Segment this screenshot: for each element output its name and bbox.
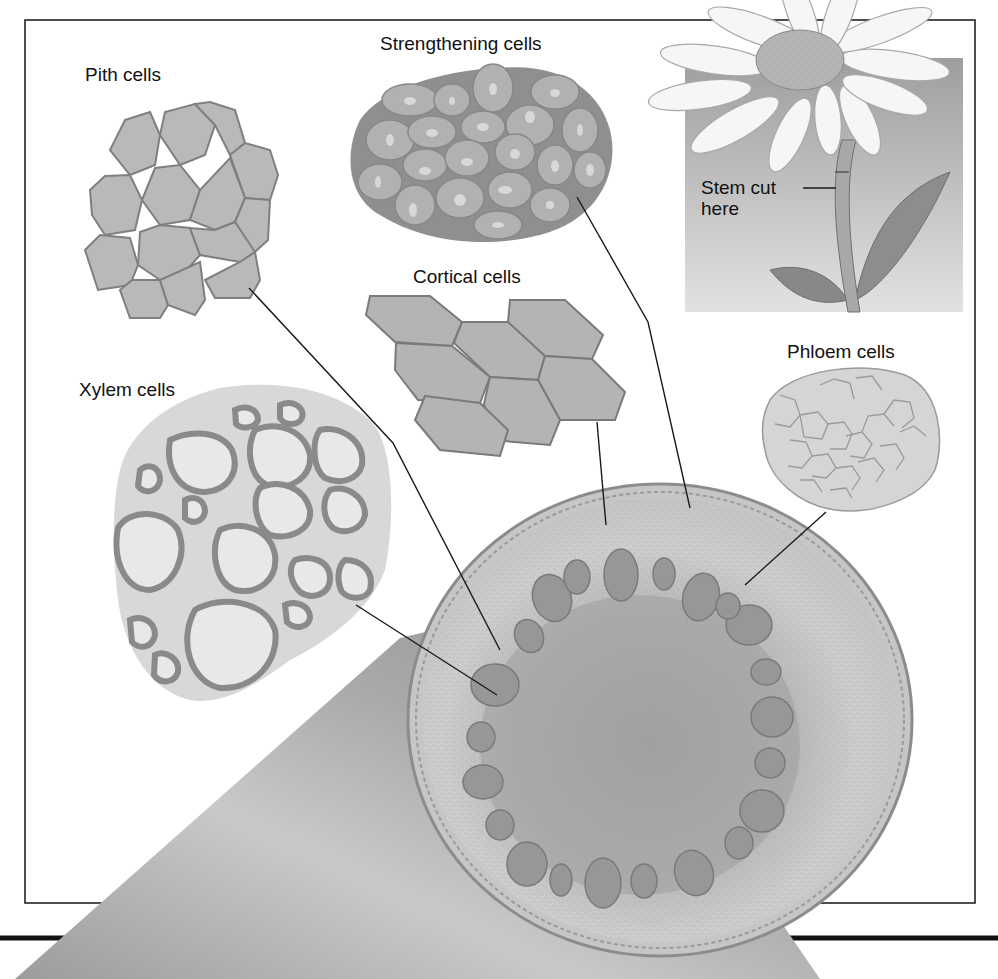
label-cortical-cells: Cortical cells xyxy=(413,266,521,288)
daisy-illustration xyxy=(647,0,963,312)
diagram-stage: Pith cells Strengthening cells Cortical … xyxy=(0,0,998,979)
cortical-cells-illustration xyxy=(366,296,625,456)
phloem-cells-illustration xyxy=(762,368,939,511)
stem-cross-section xyxy=(408,484,912,956)
label-pith-cells: Pith cells xyxy=(85,64,161,86)
label-phloem-cells: Phloem cells xyxy=(787,341,895,363)
label-strengthening-cells: Strengthening cells xyxy=(380,33,542,55)
pith-cells-illustration xyxy=(85,102,278,318)
strengthening-cells-illustration xyxy=(350,64,612,242)
xylem-cells-illustration xyxy=(114,385,392,701)
label-stem-cut-here: Stem cut here xyxy=(701,177,776,219)
diagram-canvas xyxy=(0,0,998,979)
label-xylem-cells: Xylem cells xyxy=(79,379,175,401)
